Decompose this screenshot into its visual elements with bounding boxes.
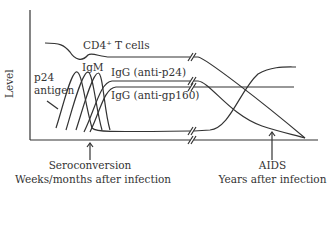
p24-label-line1: p24 bbox=[34, 72, 54, 83]
seroconversion-label: Seroconversion bbox=[15, 158, 165, 172]
y-axis-label: Level bbox=[3, 69, 15, 98]
p24-pointer bbox=[47, 101, 58, 109]
p24-label-line2: antigen bbox=[34, 85, 74, 96]
igm-label: IgM bbox=[82, 62, 104, 73]
late-caption: AIDS Years after infection bbox=[210, 158, 333, 186]
aids-label: AIDS bbox=[210, 158, 333, 172]
cd4-label: CD4⁺ T cells bbox=[83, 40, 150, 51]
early-caption: Seroconversion Weeks/months after infect… bbox=[15, 158, 165, 186]
igg-p24-label: IgG (anti-p24) bbox=[111, 67, 186, 78]
cd4-curve-late bbox=[194, 57, 305, 138]
late-time-label: Years after infection bbox=[210, 172, 333, 186]
antigen-rise-curve bbox=[194, 67, 296, 131]
early-time-label: Weeks/months after infection bbox=[15, 172, 165, 186]
igg-gp160-label: IgG (anti-gp160) bbox=[111, 90, 199, 101]
